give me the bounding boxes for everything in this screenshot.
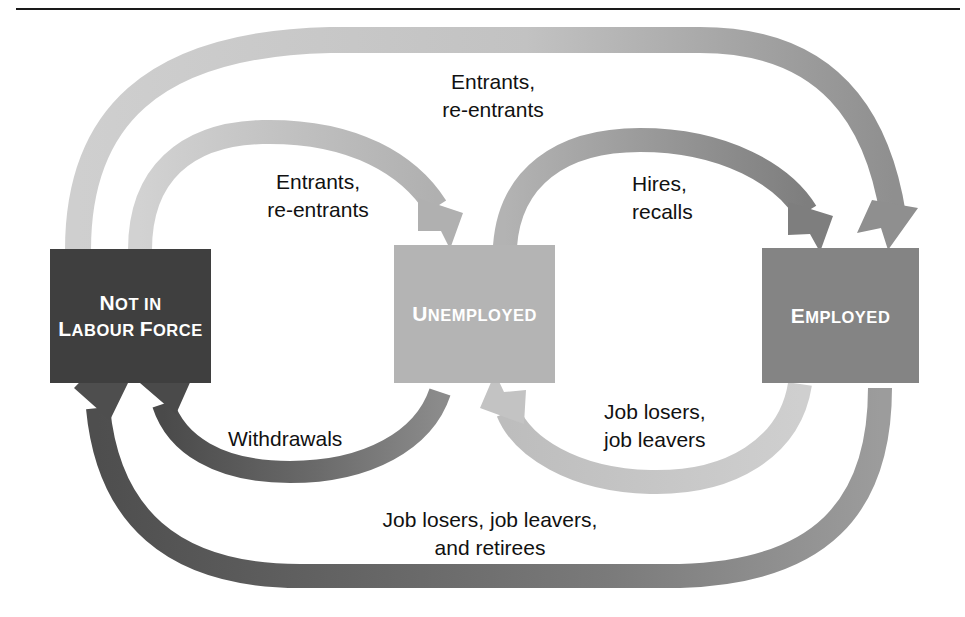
flow-label-entrants-reentrants-outer: Entrants, re-entrants [398, 68, 588, 123]
employed-label-rest: MPLOYED [805, 308, 890, 326]
nilf-label-line2-initial-b: F [140, 317, 153, 340]
nilf-label-line1-rest: OT IN [115, 295, 162, 313]
flow-label-job-losers-leavers-retirees: Job losers, job leavers, and retirees [330, 506, 650, 561]
nilf-label-line1-initial: N [99, 291, 115, 314]
state-box-unemployed[interactable]: UNEMPLOYED [394, 245, 555, 383]
state-box-not-in-labour-force[interactable]: NOT IN LABOUR FORCE [50, 249, 211, 383]
diagram-canvas: NOT IN LABOUR FORCE UNEMPLOYED EMPLOYED … [0, 0, 965, 617]
flow-label-job-losers-job-leavers: Job losers, job leavers [604, 398, 764, 453]
flow-label-hires-recalls: Hires, recalls [632, 170, 762, 225]
unemployed-label-rest: NEMPLOYED [428, 306, 537, 324]
employed-label-initial: E [791, 304, 806, 327]
flow-label-entrants-reentrants-inner: Entrants, re-entrants [238, 168, 398, 223]
nilf-label-line2-initial-a: L [58, 317, 71, 340]
nilf-label-line2-rest-b: ORCE [153, 321, 203, 339]
nilf-label-line2-rest-a: ABOUR [72, 321, 140, 339]
state-box-employed[interactable]: EMPLOYED [762, 248, 919, 383]
flow-label-withdrawals: Withdrawals [228, 425, 408, 453]
unemployed-label-initial: U [412, 302, 428, 325]
